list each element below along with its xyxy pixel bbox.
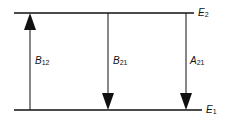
a21-label: A21 — [190, 56, 204, 66]
b21-label: B21 — [113, 56, 127, 66]
b12-label: B12 — [35, 56, 49, 66]
upper-level-label: E2 — [198, 8, 209, 18]
lower-level-label: E1 — [206, 105, 217, 115]
